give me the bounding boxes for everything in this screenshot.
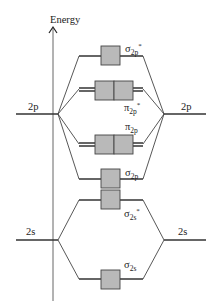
orbital-box (114, 81, 133, 100)
svg-text:2p: 2p (28, 101, 39, 112)
atomic-orbital-left-2p: 2p (16, 101, 58, 114)
atomic-orbital-right-2p: 2p (164, 101, 206, 114)
svg-text:σ2p*: σ2p* (125, 42, 142, 57)
svg-text:2p: 2p (181, 101, 192, 112)
atomic-orbital-right-2s: 2s (164, 226, 206, 240)
orbital-box (101, 169, 120, 188)
svg-text:2s: 2s (26, 226, 35, 237)
connectors-2s (58, 200, 164, 279)
svg-text:σ2s: σ2s (124, 259, 136, 273)
orbital-box (95, 135, 114, 154)
orbital-box (101, 46, 120, 65)
svg-text:π2p: π2p (125, 121, 138, 135)
energy-axis: Energy (49, 14, 81, 301)
energy-label: Energy (50, 14, 81, 25)
mo-sigma-2s: σ2s (79, 259, 143, 289)
svg-text:σ2s*: σ2s* (124, 207, 140, 222)
atomic-orbital-left-2s: 2s (16, 226, 58, 240)
mo-sigma-2p-star: σ2p* (79, 42, 143, 65)
orbital-box (95, 81, 114, 100)
svg-text:π2p*: π2p* (124, 101, 141, 116)
orbital-box (114, 135, 133, 154)
mo-pi-2p-star: π2p* (79, 81, 143, 116)
mo-diagram: Energy 2p 2p 2s 2s σ2p* (0, 0, 220, 307)
svg-text:2s: 2s (178, 226, 187, 237)
mo-sigma-2p: σ2p (79, 167, 143, 188)
orbital-box (101, 190, 120, 209)
mo-pi-2p: π2p (79, 121, 143, 154)
mo-sigma-2s-star: σ2s* (79, 190, 143, 222)
connectors-2p (58, 56, 164, 179)
orbital-box (101, 270, 120, 289)
